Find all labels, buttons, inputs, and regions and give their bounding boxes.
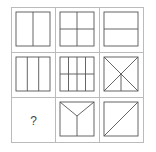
cell-r3-c3 [99, 97, 144, 143]
cell-r2-c3 [99, 52, 144, 97]
puzzle-grid: ? [11, 7, 144, 143]
square-three-vertical-one-horizontal-figure [60, 57, 94, 91]
square-one-diagonal-figure [104, 102, 138, 136]
cell-r3-c1-missing: ? [11, 97, 55, 143]
cell-r1-c3 [99, 7, 144, 52]
cell-r2-c2 [55, 52, 99, 97]
square-cross-figure [60, 12, 94, 46]
cell-r1-c2 [55, 7, 99, 52]
cell-r3-c2 [55, 97, 99, 143]
square-two-vertical-lines-figure [16, 57, 50, 91]
square-one-vertical-line-figure [16, 12, 50, 46]
square-diagonals-figure [104, 57, 138, 91]
square-one-horizontal-line-figure [104, 12, 138, 46]
cell-r1-c1 [11, 7, 55, 52]
square-y-shape-figure [60, 102, 94, 136]
cell-r2-c1 [11, 52, 55, 97]
question-mark: ? [12, 114, 55, 128]
